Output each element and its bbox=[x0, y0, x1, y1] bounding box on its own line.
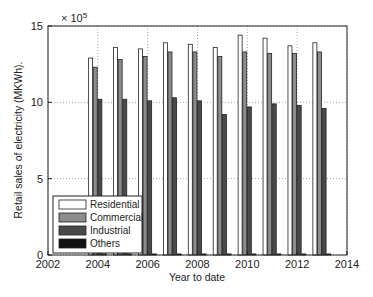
legend-swatch bbox=[59, 239, 86, 248]
bar-industrial bbox=[173, 98, 177, 255]
legend-swatch bbox=[59, 200, 86, 209]
bar-residential bbox=[288, 46, 292, 255]
bar-industrial bbox=[247, 107, 251, 255]
bar-industrial bbox=[297, 105, 301, 255]
legend-swatch bbox=[59, 213, 86, 222]
bar-commercial bbox=[218, 57, 222, 255]
legend-swatch bbox=[59, 226, 86, 235]
y-tick-label: 15 bbox=[31, 20, 43, 32]
legend: ResidentialCommercialIndustrialOthers bbox=[53, 196, 143, 253]
x-tick-label: 2006 bbox=[135, 258, 159, 270]
x-tick-label: 2010 bbox=[235, 258, 259, 270]
bar-residential bbox=[213, 47, 217, 255]
y-axis-label: Retail sales of electricity (MKWh). bbox=[12, 62, 24, 219]
bar-industrial bbox=[222, 115, 226, 255]
x-tick-label: 2004 bbox=[86, 258, 110, 270]
bar-industrial bbox=[322, 108, 326, 255]
bar-commercial bbox=[293, 53, 297, 255]
legend-label: Commercial bbox=[90, 212, 143, 223]
bar-commercial bbox=[317, 52, 321, 255]
bar-residential bbox=[313, 43, 317, 255]
bar-commercial bbox=[268, 53, 272, 255]
y-tick-label: 10 bbox=[31, 96, 43, 108]
legend-label: Industrial bbox=[90, 225, 131, 236]
bar-residential bbox=[188, 44, 192, 255]
legend-label: Residential bbox=[90, 199, 139, 210]
bar-residential bbox=[263, 38, 267, 255]
bar-industrial bbox=[272, 104, 276, 255]
bar-commercial bbox=[193, 52, 197, 255]
y-tick-label: 0 bbox=[37, 249, 43, 261]
bar-commercial bbox=[168, 52, 172, 255]
x-tick-label: 2014 bbox=[335, 258, 359, 270]
bar-residential bbox=[238, 35, 242, 255]
bar-industrial bbox=[148, 101, 152, 255]
bar-commercial bbox=[143, 57, 147, 255]
y-tick-label: 5 bbox=[37, 173, 43, 185]
x-axis-label: Year to date bbox=[169, 271, 225, 283]
x-tick-label: 2012 bbox=[285, 258, 309, 270]
y-multiplier: × 105 bbox=[61, 11, 88, 24]
bar-industrial bbox=[198, 101, 202, 255]
bar-commercial bbox=[243, 52, 247, 255]
bar-chart: 2002200420062008201020122014051015 × 105… bbox=[0, 0, 373, 297]
x-tick-label: 2008 bbox=[185, 258, 209, 270]
legend-label: Others bbox=[90, 238, 120, 249]
bar-residential bbox=[163, 43, 167, 255]
